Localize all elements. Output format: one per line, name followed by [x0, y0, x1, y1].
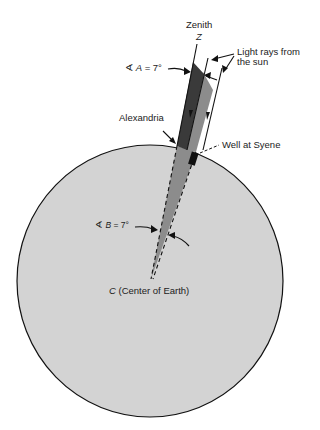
angle-b-name: B: [105, 220, 111, 230]
light-rays-line-2: the sun: [237, 57, 300, 67]
center-text: (Center of Earth): [119, 285, 190, 296]
center-symbol: C: [109, 285, 116, 296]
zenith-label: Zenith: [186, 20, 212, 30]
angle-a-value: = 7°: [145, 62, 162, 73]
angle-a-name: A: [136, 62, 142, 73]
angle-a-arrow: [168, 68, 186, 71]
zenith-symbol: Z: [196, 32, 202, 42]
alexandria-label: Alexandria: [119, 113, 164, 123]
angle-a-arrowhead: [184, 67, 191, 75]
light-rays-arrowhead-1: [211, 55, 218, 62]
well-at-syene-label: Well at Syene: [222, 140, 280, 150]
earth-circle: [17, 145, 283, 417]
angle-b-value: = 7°: [113, 220, 128, 230]
angle-symbol-icon: ∢: [125, 62, 133, 73]
angle-symbol-icon: ∢: [95, 220, 103, 230]
light-rays-label: Light rays from the sun: [237, 47, 300, 67]
ray-arrow-2: [206, 112, 210, 120]
angle-b-label: ∢ B = 7°: [95, 221, 129, 230]
center-label: C (Center of Earth): [109, 286, 189, 296]
angle-a-label: ∢ A = 7°: [125, 63, 162, 73]
